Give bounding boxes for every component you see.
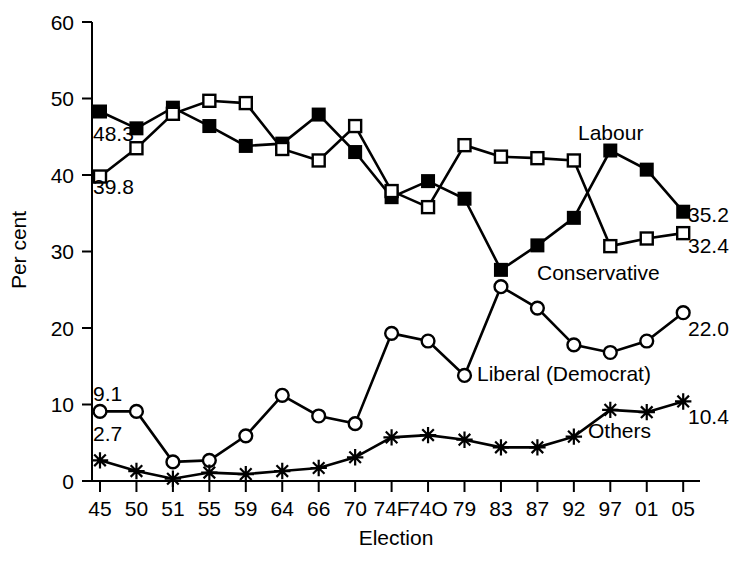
x-tick-label: 51: [161, 497, 184, 520]
x-tick-label: 70: [343, 497, 366, 520]
marker-open-square: [641, 232, 653, 244]
line-chart-svg: 0102030405060 455051555964667074F74O7983…: [0, 0, 732, 565]
marker-filled-square: [495, 264, 507, 276]
series-label-liberal: Liberal (Democrat): [477, 362, 651, 385]
y-tick-label: 10: [51, 393, 74, 416]
x-tick-label: 50: [125, 497, 148, 520]
x-tick-label: 92: [562, 497, 585, 520]
marker-star: [128, 463, 144, 479]
marker-star: [165, 471, 181, 487]
marker-star: [311, 460, 327, 476]
series-label-labour: Labour: [578, 121, 643, 144]
labour-start-value: 48.3: [93, 122, 134, 145]
others-end-value: 10.4: [688, 405, 729, 428]
marker-open-square: [276, 143, 288, 155]
liberal-start-value: 9.1: [93, 382, 122, 405]
marker-open-square: [422, 201, 434, 213]
marker-filled-square: [203, 120, 215, 132]
marker-open-circle: [239, 429, 252, 442]
y-axis-title: Per cent: [7, 211, 30, 289]
annotation-layer: Labour Conservative Liberal (Democrat) O…: [93, 121, 729, 445]
y-tick-label: 0: [62, 470, 74, 493]
marker-filled-square: [349, 146, 361, 158]
series-label-conservative: Conservative: [537, 261, 660, 284]
marker-filled-square: [94, 106, 106, 118]
marker-star: [92, 452, 108, 468]
x-tick-label: 87: [526, 497, 549, 520]
marker-filled-square: [240, 140, 252, 152]
x-tick-label: 97: [599, 497, 622, 520]
marker-open-square: [386, 185, 398, 197]
marker-star: [274, 463, 290, 479]
marker-open-square: [459, 139, 471, 151]
marker-open-square: [531, 152, 543, 164]
x-tick-label: 83: [489, 497, 512, 520]
series-label-others: Others: [588, 419, 651, 442]
marker-open-circle: [422, 335, 435, 348]
marker-open-circle: [640, 335, 653, 348]
series-conservative: [94, 95, 689, 252]
x-tick-label: 45: [88, 497, 111, 520]
marker-open-square: [313, 154, 325, 166]
marker-open-circle: [458, 369, 471, 382]
y-tick-label: 50: [51, 87, 74, 110]
liberal-end-value: 22.0: [688, 317, 729, 340]
marker-open-square: [604, 240, 616, 252]
marker-open-square: [568, 154, 580, 166]
marker-open-square: [203, 95, 215, 107]
marker-star: [201, 464, 217, 480]
marker-star: [602, 402, 618, 418]
marker-open-square: [349, 120, 361, 132]
y-tick-label: 20: [51, 317, 74, 340]
marker-filled-square: [531, 239, 543, 251]
marker-star: [493, 439, 509, 455]
marker-star: [566, 428, 582, 444]
x-tick-label: 64: [271, 497, 295, 520]
labour-end-value: 35.2: [688, 203, 729, 226]
marker-filled-square: [313, 109, 325, 121]
marker-star: [420, 427, 436, 443]
marker-star: [639, 404, 655, 420]
marker-open-circle: [385, 327, 398, 340]
marker-open-circle: [312, 410, 325, 423]
marker-open-square: [240, 97, 252, 109]
marker-open-circle: [167, 455, 180, 468]
marker-filled-square: [568, 212, 580, 224]
marker-open-square: [167, 108, 179, 120]
y-tick-label: 40: [51, 164, 74, 187]
marker-star: [529, 439, 545, 455]
marker-star: [347, 449, 363, 465]
y-tick-label: 60: [51, 11, 74, 34]
others-start-value: 2.7: [93, 422, 122, 445]
x-tick-label: 05: [672, 497, 695, 520]
marker-open-circle: [567, 338, 580, 351]
y-tick-marks: [82, 22, 92, 481]
x-tick-labels: 455051555964667074F74O79838792970105: [88, 497, 695, 520]
conservative-start-value: 39.8: [93, 175, 134, 198]
x-tick-label: 66: [307, 497, 330, 520]
x-tick-label: 79: [453, 497, 476, 520]
y-tick-labels: 0102030405060: [51, 11, 74, 493]
marker-open-circle: [604, 346, 617, 359]
marker-open-circle: [94, 405, 107, 418]
x-tick-label: 74F: [374, 497, 410, 520]
x-tick-label: 74O: [408, 497, 448, 520]
marker-open-square: [495, 151, 507, 163]
y-tick-label: 30: [51, 240, 74, 263]
conservative-end-value: 32.4: [688, 234, 729, 257]
chart-container: 0102030405060 455051555964667074F74O7983…: [0, 0, 732, 565]
x-tick-label: 59: [234, 497, 257, 520]
x-axis-title: Election: [359, 526, 434, 549]
x-tick-label: 55: [198, 497, 221, 520]
marker-star: [383, 429, 399, 445]
marker-filled-square: [641, 164, 653, 176]
marker-filled-square: [422, 175, 434, 187]
x-tick-marks: [100, 481, 683, 492]
marker-filled-square: [459, 193, 471, 205]
marker-star: [456, 431, 472, 447]
marker-open-circle: [349, 417, 362, 430]
marker-open-circle: [531, 302, 544, 315]
marker-open-circle: [130, 405, 143, 418]
marker-open-circle: [495, 280, 508, 293]
marker-filled-square: [604, 145, 616, 157]
